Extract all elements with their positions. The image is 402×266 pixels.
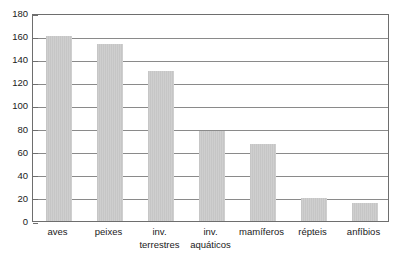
bar <box>352 203 378 221</box>
bar <box>199 131 225 221</box>
x-axis-label-line: anfíbios <box>325 226 402 239</box>
x-axis-category-labels: avespeixesinv.terrestresinv.aquáticosmam… <box>32 226 389 266</box>
bar <box>148 71 174 221</box>
x-axis-label-line: aquáticos <box>172 239 250 252</box>
y-axis-tick-label: 20 <box>2 194 28 204</box>
bar <box>250 144 276 221</box>
y-axis-tick <box>33 223 38 224</box>
x-axis-category-label: anfíbios <box>325 226 402 239</box>
y-axis-tick-label: 180 <box>2 9 28 19</box>
y-axis-tick-label: 60 <box>2 148 28 158</box>
y-axis-tick-label: 100 <box>2 102 28 112</box>
y-axis-tick-label: 120 <box>2 79 28 89</box>
bar <box>46 36 72 221</box>
bars <box>33 15 388 221</box>
bar <box>97 44 123 221</box>
bar <box>301 198 327 221</box>
plot-area <box>32 14 389 222</box>
y-axis-tick-label: 80 <box>2 125 28 135</box>
bar-chart: 020406080100120140160180 avespeixesinv.t… <box>0 0 402 266</box>
y-axis-tick-label: 140 <box>2 55 28 65</box>
y-axis-tick-labels: 020406080100120140160180 <box>0 14 28 222</box>
y-axis-tick-label: 160 <box>2 32 28 42</box>
y-axis-tick-label: 40 <box>2 171 28 181</box>
